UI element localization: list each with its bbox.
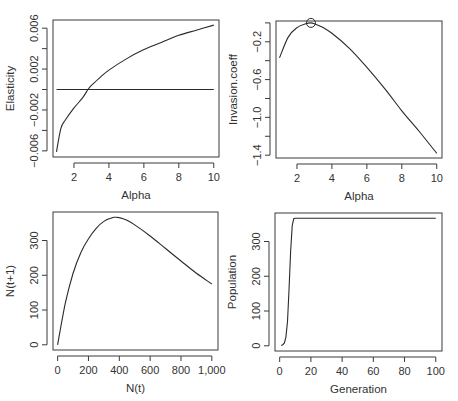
x-tick-label: 8 [399, 172, 405, 184]
plot-area-frame [53, 20, 219, 157]
x-tick-label: 6 [141, 171, 147, 183]
x-tick-label: 100 [427, 365, 445, 377]
y-tick-label: 200 [250, 267, 262, 285]
y-tick-label: −0.2 [251, 31, 263, 53]
x-axis: 246810 [71, 163, 220, 183]
y-axis-label: N(t+1) [4, 265, 16, 297]
y-tick-label: −0.6 [251, 69, 263, 91]
x-axis: 02004006008001,000 [55, 356, 226, 376]
panel-invasion-coefficient: 246810−0.2−0.6−1.0−1.4AlphaInvasion.coef… [227, 18, 443, 202]
x-tick-label: 6 [364, 172, 370, 184]
panel-population-trajectory: 0204060801000100200300GenerationPopulati… [226, 213, 445, 395]
series-line-invasion-coeff [280, 23, 437, 153]
x-axis-label: Alpha [344, 190, 374, 202]
x-tick-label: 10 [431, 172, 443, 184]
plot-area-frame [275, 213, 442, 351]
x-tick-label: 4 [106, 171, 112, 183]
x-tick-label: 800 [172, 364, 190, 376]
x-tick-label: 0 [55, 364, 61, 376]
panel-recruitment-curve: 02004006008001,0000100200300N(t)N(t+1) [4, 212, 226, 394]
x-tick-label: 200 [79, 364, 97, 376]
y-tick-label: 0 [250, 343, 262, 349]
y-tick-label: −0.006 [28, 134, 40, 168]
x-tick-label: 600 [141, 364, 159, 376]
y-axis: −0.006−0.0020.0020.006 [28, 14, 47, 167]
x-tick-label: 80 [398, 365, 410, 377]
x-tick-label: 20 [305, 365, 317, 377]
x-tick-label: 400 [110, 364, 128, 376]
y-axis: 0100200300 [250, 232, 269, 349]
y-tick-label: 200 [28, 266, 40, 284]
x-tick-label: 40 [336, 365, 348, 377]
x-tick-label: 4 [329, 172, 335, 184]
y-tick-label: −1.4 [251, 144, 263, 166]
y-axis-label: Elasticity [4, 66, 16, 112]
x-axis-label: Generation [330, 383, 387, 395]
y-tick-label: 100 [28, 301, 40, 319]
x-tick-label: 2 [71, 171, 77, 183]
figure-2x2-panels: 246810−0.006−0.0020.0020.006AlphaElastic… [0, 0, 458, 401]
y-axis: 0100200300 [28, 231, 47, 348]
series-line-elasticity [57, 25, 214, 152]
panel-elasticity: 246810−0.006−0.0020.0020.006AlphaElastic… [4, 14, 220, 201]
x-axis-label: Alpha [121, 189, 151, 201]
y-axis-label: Population [226, 255, 238, 309]
plot-area-frame [53, 212, 218, 350]
x-axis-label: N(t) [126, 382, 145, 394]
y-axis: −0.2−0.6−1.0−1.4 [251, 23, 270, 166]
x-axis: 246810 [294, 164, 443, 184]
x-tick-label: 60 [367, 365, 379, 377]
x-tick-label: 0 [277, 365, 283, 377]
y-tick-label: 300 [250, 232, 262, 250]
x-axis: 020406080100 [277, 357, 445, 377]
series-line-n-t-1- [58, 217, 212, 345]
y-tick-label: 100 [250, 302, 262, 320]
x-tick-label: 2 [294, 172, 300, 184]
y-axis-label: Invasion.coeff [227, 53, 239, 125]
series-line-population [281, 218, 436, 345]
x-tick-label: 8 [176, 171, 182, 183]
y-tick-label: 0.002 [28, 55, 40, 83]
y-tick-label: 0 [28, 342, 40, 348]
y-tick-label: −0.002 [28, 93, 40, 127]
y-tick-label: 300 [28, 231, 40, 249]
x-tick-label: 10 [208, 171, 220, 183]
y-tick-label: −1.0 [251, 107, 263, 129]
y-tick-label: 0.006 [28, 14, 40, 42]
plot-area-frame [276, 21, 442, 158]
x-tick-label: 1,000 [198, 364, 226, 376]
